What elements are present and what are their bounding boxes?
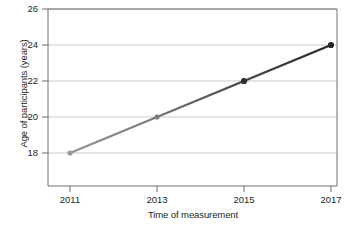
- gridlines: [48, 9, 337, 153]
- plot-frame: [48, 9, 337, 186]
- x-axis-title: Time of measurement: [48, 209, 338, 220]
- data-point-2013: [154, 114, 159, 119]
- y-axis-ticks: [42, 9, 48, 153]
- y-axis-title: Age of participants (years): [18, 9, 29, 179]
- x-tick-label-2017: 2017: [311, 194, 348, 205]
- x-tick-label-2015: 2015: [224, 194, 264, 205]
- data-point-2017: [328, 42, 334, 48]
- data-point-2015: [241, 78, 247, 84]
- data-point-2011: [67, 150, 72, 155]
- data-line-series-1: [70, 45, 331, 153]
- x-tick-label-2011: 2011: [50, 194, 90, 205]
- line-chart-plot: [0, 0, 348, 227]
- x-tick-label-2013: 2013: [137, 194, 177, 205]
- x-axis-ticks: [70, 186, 331, 192]
- chart-figure: 26 24 22 20 18 2011 2013 2015 2017 Age o…: [0, 0, 348, 227]
